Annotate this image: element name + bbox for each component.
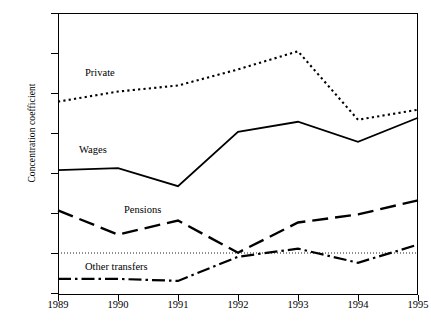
series-annotation-other-transfers: Other transfers (85, 261, 148, 272)
x-tick-1989 (58, 295, 59, 301)
series-line-private (58, 51, 418, 119)
series-line-wages (58, 118, 418, 186)
series-annotation-wages: Wages (79, 144, 107, 155)
y-axis-label: Concentration coefficient (27, 43, 37, 223)
x-tick-1990 (118, 295, 119, 301)
y-tick-10 (51, 213, 58, 214)
x-tick-1995 (418, 295, 419, 301)
series-layer (58, 13, 418, 295)
plot-area: Private Wages Pensions Other transfers (58, 13, 418, 295)
x-tick-1992 (238, 295, 239, 301)
series-line-pensions (58, 200, 418, 252)
y-tick-40 (51, 93, 58, 94)
y-tick--10 (51, 293, 58, 294)
y-tick-30 (51, 133, 58, 134)
y-tick-20 (51, 173, 58, 174)
y-tick-0 (51, 253, 58, 254)
x-tick-label-1995: 1995 (388, 299, 431, 310)
y-tick-60 (51, 13, 58, 14)
series-annotation-pensions: Pensions (124, 204, 161, 215)
concentration-coefficient-chart: Concentration coefficient 60 50 40 30 20… (0, 0, 431, 327)
x-tick-1993 (298, 295, 299, 301)
series-annotation-private: Private (85, 67, 115, 78)
x-tick-1994 (358, 295, 359, 301)
x-tick-1991 (178, 295, 179, 301)
y-tick-50 (51, 53, 58, 54)
